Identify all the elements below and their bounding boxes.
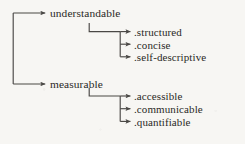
tree-connector-lines [0,0,245,144]
hook-line-understandable [89,23,120,32]
node-label-accessible[interactable]: .accessible [134,91,182,102]
node-label-self-descriptive[interactable]: .self-descriptive [134,52,206,63]
node-label-understandable[interactable]: understandable [50,8,120,19]
node-label-concise[interactable]: .concise [134,40,171,51]
node-label-measurable[interactable]: measurable [50,79,103,90]
tree-diagram-canvas: understandable measurable .structured .c… [0,0,245,144]
node-label-structured[interactable]: .structured [134,27,182,38]
node-label-communicable[interactable]: .communicable [134,104,203,115]
node-label-quantifiable[interactable]: .quantifiable [134,117,191,128]
